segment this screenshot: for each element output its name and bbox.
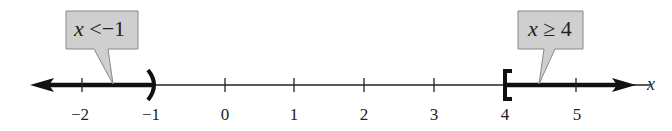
callout-right-var: x [528, 16, 538, 41]
callout-right-rel: ≥ [543, 16, 555, 41]
tick-label: 3 [430, 105, 439, 124]
tick-label: −1 [142, 105, 160, 124]
tick-label: 0 [221, 105, 230, 124]
tick-label: 4 [501, 105, 510, 124]
callout-left-var: x [74, 16, 84, 41]
callout-right-text: x ≥ 4 [528, 16, 572, 42]
callout-right-num: 4 [561, 16, 572, 41]
callout-left-rel: < [89, 16, 101, 41]
callout-left-text: x <−1 [74, 16, 125, 42]
tick-label: 2 [360, 105, 369, 124]
tick-label: 5 [573, 105, 582, 124]
axis-label: x [646, 74, 655, 94]
callout-left-num: −1 [102, 16, 125, 41]
tick-label: −2 [71, 105, 89, 124]
tick-label: 1 [290, 105, 299, 124]
